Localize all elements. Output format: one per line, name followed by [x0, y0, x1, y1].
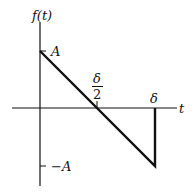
diagram: f(t) t A −A δ 2 δ	[0, 0, 196, 195]
label-two: 2	[93, 88, 101, 101]
label-A: A	[51, 45, 60, 58]
x-axis-label: t	[179, 102, 184, 115]
label-delta: δ	[150, 92, 158, 105]
label-delta-num: δ	[93, 72, 101, 85]
label-minus-A: −A	[51, 160, 71, 173]
y-axis-label: f(t)	[32, 9, 52, 22]
